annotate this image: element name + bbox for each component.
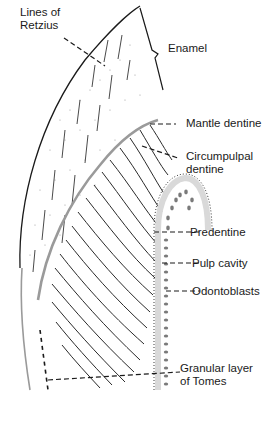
label-mantle-dentine: Mantle dentine: [186, 117, 261, 130]
label-lines-of-retzius: Lines of Retzius: [20, 6, 60, 32]
root-dashed: [40, 330, 48, 390]
predentine-band: [158, 178, 208, 390]
label-enamel: Enamel: [168, 42, 207, 55]
label-line: of Tomes: [180, 375, 253, 388]
label-granular-layer: Granular layer of Tomes: [180, 362, 253, 388]
enamel-brace: [140, 8, 163, 90]
label-odontoblasts: Odontoblasts: [192, 285, 260, 298]
label-pulp-cavity: Pulp cavity: [192, 257, 248, 270]
label-line: Lines of: [20, 6, 60, 19]
label-line: dentine: [186, 163, 253, 176]
label-line: Retzius: [20, 19, 60, 32]
label-line: Granular layer: [180, 362, 253, 375]
root-outline: [21, 268, 30, 390]
dentino-enamel-junction: [38, 120, 158, 300]
enamel-outline: [20, 6, 140, 268]
label-circumpulpal-dentine: Circumpulpal dentine: [186, 150, 253, 176]
dentinal-tubules: [52, 125, 172, 388]
leader-retzius: [64, 38, 105, 66]
odontoblasts: [164, 190, 194, 386]
label-line: Circumpulpal: [186, 150, 253, 163]
retzius-lines: [33, 35, 130, 272]
leader-circumpulpal: [142, 146, 178, 158]
tooth-diagram: Lines of Retzius Enamel Mantle dentine C…: [0, 0, 262, 432]
label-predentine: Predentine: [190, 226, 246, 239]
